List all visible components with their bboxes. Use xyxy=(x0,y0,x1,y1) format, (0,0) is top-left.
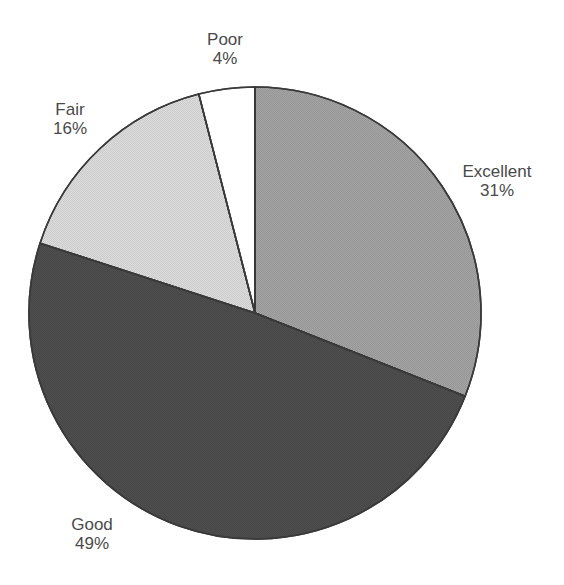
label-excellent-pct: 31% xyxy=(463,181,532,200)
label-fair: Fair 16% xyxy=(53,100,87,138)
pie-slices xyxy=(29,87,481,539)
pie-chart xyxy=(0,0,564,585)
label-fair-name: Fair xyxy=(53,100,87,119)
label-good: Good 49% xyxy=(71,515,113,553)
label-poor: Poor 4% xyxy=(207,30,243,68)
label-fair-pct: 16% xyxy=(53,119,87,138)
label-excellent-name: Excellent xyxy=(463,162,532,181)
label-excellent: Excellent 31% xyxy=(463,162,532,200)
label-poor-pct: 4% xyxy=(207,49,243,68)
label-good-pct: 49% xyxy=(71,534,113,553)
label-good-name: Good xyxy=(71,515,113,534)
label-poor-name: Poor xyxy=(207,30,243,49)
